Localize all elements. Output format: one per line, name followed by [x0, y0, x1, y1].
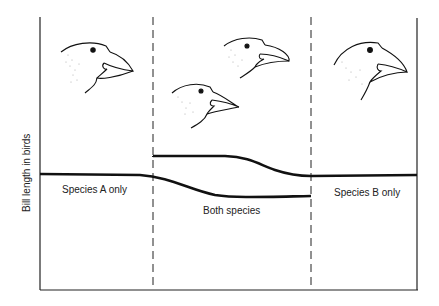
- bill-length-diagram: Bill length in birds Species A only Both…: [0, 0, 439, 306]
- bird-head-species-b-icon: [334, 42, 407, 100]
- species-b-curve: [153, 156, 417, 176]
- bird-head-species-a-icon: [61, 43, 133, 93]
- region-label-species-a: Species A only: [62, 184, 127, 195]
- y-axis-label: Bill length in birds: [21, 134, 32, 212]
- bird-head-both-lower-icon: [172, 84, 239, 128]
- region-label-both: Both species: [203, 205, 260, 216]
- bird-head-both-upper-icon: [224, 38, 289, 78]
- region-label-species-b: Species B only: [334, 187, 400, 198]
